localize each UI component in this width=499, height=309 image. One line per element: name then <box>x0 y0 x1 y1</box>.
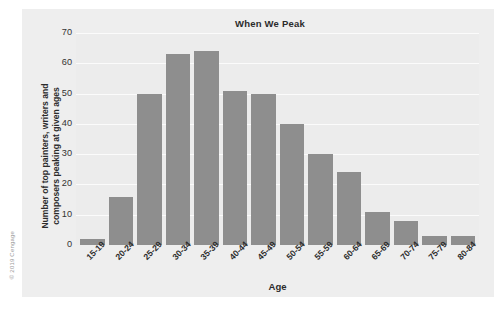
bar <box>308 154 333 245</box>
y-axis-tick-label: 10 <box>50 209 72 219</box>
bar-slot <box>164 33 193 245</box>
bar-slot <box>306 33 335 245</box>
bar <box>109 197 134 245</box>
bar <box>137 94 162 245</box>
y-axis-tick-label: 0 <box>50 239 72 249</box>
bar-slot <box>278 33 307 245</box>
bar <box>166 54 191 245</box>
bar <box>280 124 305 245</box>
bar-series <box>76 33 479 245</box>
bar <box>251 94 276 245</box>
y-axis-tick-label: 40 <box>50 118 72 128</box>
plot-area <box>76 33 479 245</box>
y-axis-tick-label: 30 <box>50 148 72 158</box>
bar <box>223 91 248 245</box>
y-axis-tick-label: 20 <box>50 178 72 188</box>
x-tick-slot: 45-49 <box>249 245 278 285</box>
chart-title: When We Peak <box>60 18 480 29</box>
bar-slot <box>192 33 221 245</box>
x-tick-slot: 50-54 <box>278 245 307 285</box>
x-tick-slot: 70-74 <box>392 245 421 285</box>
bar-slot <box>392 33 421 245</box>
x-tick-slot: 75-79 <box>420 245 449 285</box>
bar-slot <box>107 33 136 245</box>
copyright-credit: © 2019 Cengage <box>9 227 15 283</box>
x-tick-slot: 20-24 <box>107 245 136 285</box>
y-axis-tick-label: 60 <box>50 57 72 67</box>
bar-slot <box>335 33 364 245</box>
bar-slot <box>249 33 278 245</box>
x-tick-slot: 60-64 <box>335 245 364 285</box>
bar-slot <box>135 33 164 245</box>
bar-slot <box>78 33 107 245</box>
x-tick-slot: 15-19 <box>78 245 107 285</box>
x-tick-slot: 35-39 <box>192 245 221 285</box>
y-axis-tick-label: 70 <box>50 27 72 37</box>
x-tick-slot: 55-59 <box>306 245 335 285</box>
chart-figure: © 2019 Cengage When We Peak Number of to… <box>0 0 499 309</box>
y-axis-tick-label: 50 <box>50 88 72 98</box>
x-tick-slot: 40-44 <box>221 245 250 285</box>
x-tick-slot: 25-29 <box>135 245 164 285</box>
x-axis-tick-labels: 15-1920-2425-2930-3435-3940-4445-4950-54… <box>76 245 479 285</box>
bar-slot <box>449 33 478 245</box>
y-axis-title-line-1: Number of top painters, writers and <box>40 54 51 259</box>
bar-slot <box>420 33 449 245</box>
x-tick-slot: 65-69 <box>363 245 392 285</box>
bar-slot <box>363 33 392 245</box>
bar <box>337 172 362 245</box>
x-tick-slot: 80-84 <box>449 245 478 285</box>
bar-slot <box>221 33 250 245</box>
x-tick-slot: 30-34 <box>164 245 193 285</box>
bar <box>194 51 219 245</box>
x-axis-title: Age <box>76 281 479 292</box>
